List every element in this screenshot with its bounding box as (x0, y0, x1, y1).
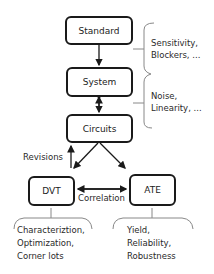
annotation-line: Blockers, ... (151, 49, 200, 61)
node-label: System (83, 77, 117, 87)
annotation-line: Optimization, (17, 237, 85, 250)
annotation-standard-system: Sensitivity, Blockers, ... (151, 37, 200, 61)
node-standard: Standard (65, 16, 133, 45)
annotation-line: Yield, (127, 224, 176, 237)
annotation-dvt: Characteriztion, Optimization, Corner lo… (17, 224, 85, 263)
edge-label-revisions: Revisions (23, 151, 63, 163)
edge-label-correlation: Correlation (78, 192, 125, 204)
annotation-system-circuits: Noise, Linearity, ... (151, 90, 202, 114)
annotation-line: Corner lots (17, 250, 85, 263)
annotation-line: Reliability, (127, 237, 176, 250)
node-circuits: Circuits (66, 114, 133, 143)
node-dvt: DVT (28, 176, 75, 206)
annotation-line: Robustness (127, 250, 176, 263)
annotation-line: Sensitivity, (151, 37, 200, 49)
node-label: ATE (144, 185, 161, 195)
node-ate: ATE (129, 174, 176, 206)
node-label: Standard (79, 26, 120, 36)
annotation-ate: Yield, Reliability, Robustness (127, 224, 176, 263)
node-system: System (66, 67, 133, 97)
node-label: DVT (42, 186, 60, 196)
annotation-line: Linearity, ... (151, 102, 202, 114)
annotation-line: Noise, (151, 90, 202, 102)
node-label: Circuits (83, 124, 117, 134)
annotation-line: Characteriztion, (17, 224, 85, 237)
